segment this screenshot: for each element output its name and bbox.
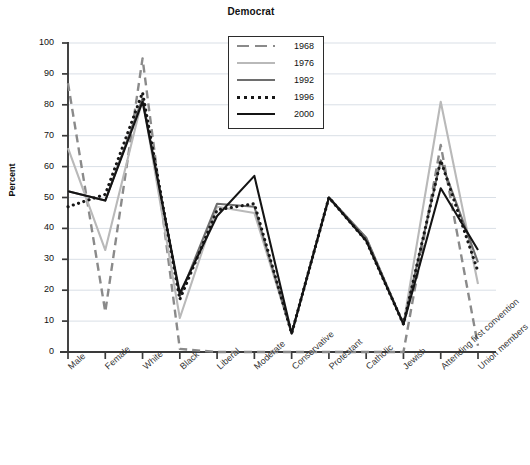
legend-label-1996: 1996 — [275, 92, 323, 102]
legend-swatch-1968 — [237, 41, 275, 51]
legend-label-1992: 1992 — [275, 75, 323, 85]
legend-label-1976: 1976 — [275, 58, 323, 68]
legend-swatch-1976 — [237, 58, 275, 68]
legend-swatch-1992 — [237, 75, 275, 85]
legend-label-1968: 1968 — [275, 41, 323, 51]
legend: 1968 1976 1992 1996 2000 — [228, 36, 324, 129]
legend-item[interactable]: 1996 — [229, 88, 323, 105]
legend-swatch-2000 — [237, 109, 275, 119]
legend-item[interactable]: 1992 — [229, 71, 323, 88]
legend-item[interactable]: 1976 — [229, 54, 323, 71]
legend-label-2000: 2000 — [275, 109, 323, 119]
legend-item[interactable]: 1968 — [229, 37, 323, 54]
series-line-2000 — [68, 102, 478, 334]
legend-item[interactable]: 2000 — [229, 105, 323, 122]
legend-swatch-1996 — [237, 92, 275, 102]
